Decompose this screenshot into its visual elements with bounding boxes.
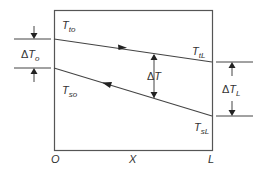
axis-origin-label: O [51,153,60,165]
mid-up-arrow-icon [151,54,158,60]
up-arrow-icon [31,68,38,74]
tube-side-line [54,39,212,62]
shell-flow-arrow-icon [102,82,112,88]
heat-exchanger-diagram: Tto TtL Tso TsL ΔTo ΔT ΔTL O X L [0,0,264,170]
label-T-to: Tto [62,19,76,34]
label-delta-T: ΔT [147,70,162,82]
label-T-tL: TtL [192,45,205,60]
axis-L-label: L [208,153,214,165]
down-arrow-icon [31,33,38,39]
label-delta-T-L: ΔTL [222,83,241,98]
shell-side-line [54,68,212,116]
domain-box [55,11,213,151]
axis-x-label: X [128,153,137,165]
label-delta-T-o: ΔTo [21,48,40,63]
label-T-so: Tso [62,84,78,99]
right-down-arrow-icon [229,110,236,116]
label-T-sL: TsL [194,121,209,136]
right-up-arrow-icon [229,62,236,68]
